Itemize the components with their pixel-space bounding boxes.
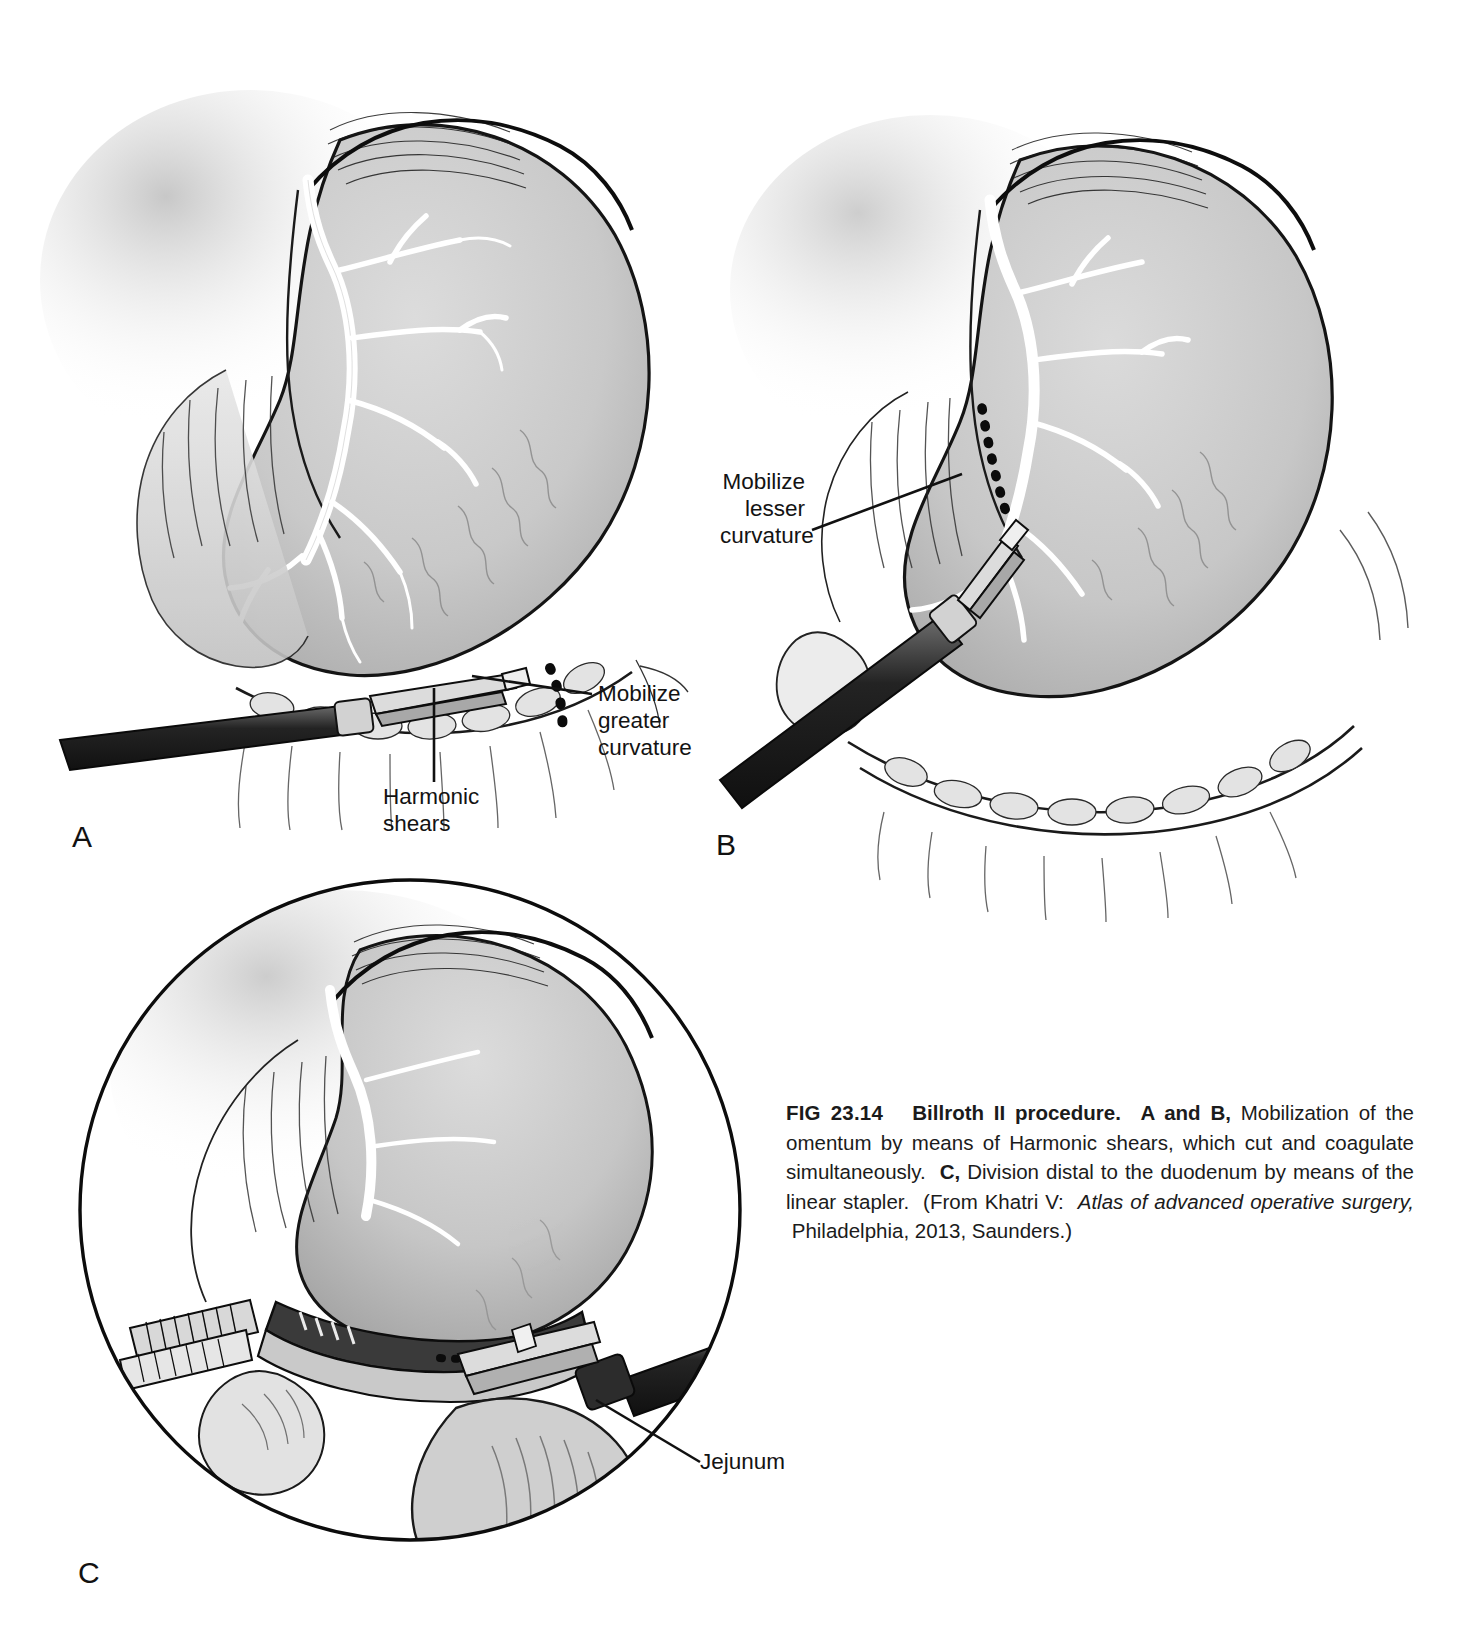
- panel-b-illustration: [700, 100, 1440, 840]
- caption-part-ab: A and B,: [1140, 1101, 1231, 1124]
- panel-c-illustration: [60, 860, 760, 1560]
- figure-caption: FIG 23.14 Billroth II procedure. A and B…: [786, 1098, 1414, 1246]
- caption-figure-number: FIG 23.14: [786, 1101, 883, 1124]
- panel-letter-c: C: [78, 1556, 100, 1590]
- harmonic-shears-instrument-a: [60, 668, 530, 770]
- callout-mobilize-greater-curvature: Mobilize greater curvature: [598, 680, 692, 761]
- callout-harmonic-shears: Harmonic shears: [383, 783, 479, 837]
- panel-letter-a: A: [72, 820, 93, 854]
- caption-title: Billroth II procedure.: [912, 1101, 1121, 1124]
- callout-mobilize-lesser-curvature: Mobilize lesser curvature: [720, 468, 805, 549]
- caption-source-prefix: (From Khatri V:: [923, 1190, 1064, 1213]
- callout-jejunum: Jejunum: [700, 1448, 785, 1475]
- figure-page: Mobilize greater curvature Harmonic shea…: [0, 0, 1471, 1630]
- caption-source-suffix: Philadelphia, 2013, Saunders.): [792, 1219, 1072, 1242]
- caption-source-title: Atlas of advanced operative surgery,: [1078, 1190, 1414, 1213]
- panel-letter-b: B: [716, 828, 737, 862]
- caption-part-c: C,: [940, 1160, 961, 1183]
